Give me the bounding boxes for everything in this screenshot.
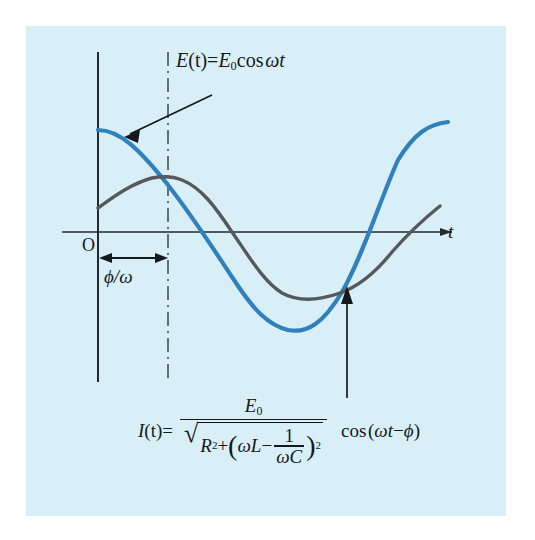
capacitive-reactance-fraction: 1ωC <box>274 426 304 465</box>
group-close-paren: ) <box>306 438 315 455</box>
emf-time-symbol: t <box>279 49 285 71</box>
cos-close-paren: ) <box>414 420 420 441</box>
cos-function: cos <box>341 420 366 441</box>
phase-measure-arrowhead-left <box>99 253 112 263</box>
emf-label-leader-line <box>130 95 212 134</box>
origin-label: O <box>82 236 95 254</box>
emf-equation-label: E(t)=E0cos ωt <box>176 50 285 73</box>
capacitive-omega: ω <box>276 447 289 466</box>
cos-phase: ϕ <box>404 420 414 441</box>
current-lhs: I(t)= <box>138 421 173 440</box>
inductance-symbol: L <box>251 436 262 455</box>
x-axis-label: t <box>448 222 453 241</box>
phase-shift-label: ϕ/ω <box>104 267 133 286</box>
current-denominator: √ R2+(ωL−1ωC)2 <box>180 420 327 464</box>
current-numerator-symbol: E <box>245 395 257 416</box>
reactance-minus: − <box>261 436 272 455</box>
denominator-plus: + <box>217 436 228 455</box>
group-exponent: 2 <box>316 440 322 451</box>
current-equals: = <box>162 420 173 441</box>
emf-cos-function: cos <box>237 49 264 71</box>
radical-body: R2+(ωL−1ωC)2 <box>197 422 323 464</box>
capacitive-numerator: 1 <box>281 426 297 445</box>
square-root: √ R2+(ωL−1ωC)2 <box>184 422 323 464</box>
group-open-paren: ( <box>228 438 237 455</box>
phase-numerator: ϕ <box>104 266 114 287</box>
current-numerator-subscript: 0 <box>256 405 262 418</box>
current-numerator: E0 <box>239 396 269 419</box>
current-lhs-arg: (t) <box>144 420 162 441</box>
current-curve <box>98 177 440 300</box>
emf-curve <box>98 122 448 331</box>
emf-equals: = <box>207 49 218 71</box>
current-fraction: E0 √ R2+(ωL−1ωC)2 <box>180 396 327 465</box>
emf-lhs-symbol: E <box>176 49 188 71</box>
capacitance-symbol: C <box>290 447 303 466</box>
emf-amplitude-symbol: E <box>218 49 230 71</box>
cos-minus: − <box>393 420 404 441</box>
current-equation-label: I(t)= E0 √ R2+(ωL−1ωC)2 cos (ωt−ϕ) <box>138 396 420 465</box>
phase-denominator: ω <box>119 266 132 287</box>
radical-sign: √ <box>184 423 198 465</box>
cos-omega: ω <box>374 420 387 441</box>
resistance-symbol: R <box>200 436 212 455</box>
emf-lhs-arg: (t) <box>188 49 207 71</box>
reactance-omega: ω <box>237 436 250 455</box>
emf-omega-symbol: ω <box>265 49 279 71</box>
figure-root: E(t)=E0cos ωt O t ϕ/ω I(t)= E0 √ R2+(ωL−… <box>0 0 535 540</box>
capacitive-denominator: ωC <box>274 447 304 466</box>
current-cosine-term: cos (ωt−ϕ) <box>341 421 420 440</box>
phase-measure-arrowhead-right <box>155 253 168 263</box>
